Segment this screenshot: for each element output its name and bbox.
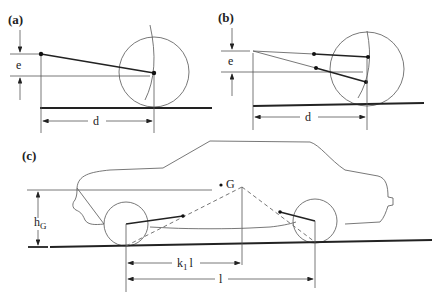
wheel-arc (358, 31, 370, 98)
cg-label: G (226, 177, 235, 191)
suspension-geometry-diagram: (a) e d (b) e (0, 0, 441, 304)
ground-line (253, 103, 424, 106)
dim-k1l-label: k1l (177, 256, 194, 272)
lower-arm (316, 68, 366, 82)
panel-c: (c) hG G k1l (22, 141, 432, 292)
dim-hg-label: hG (34, 215, 47, 231)
swing-arm (41, 54, 154, 73)
panel-b-label: (b) (218, 10, 234, 25)
cg-point (219, 183, 222, 186)
dim-d-label: d (93, 114, 99, 128)
rear-arm-pivot (278, 210, 282, 214)
panel-a-label: (a) (8, 12, 23, 27)
wheel-arc (145, 25, 154, 100)
panel-c-label: (c) (22, 148, 36, 163)
upper-arm-pivot (312, 52, 316, 56)
dim-d-label: d (305, 110, 311, 124)
rear-dashed-line (242, 187, 315, 242)
dim-wheelbase-label: l (219, 272, 223, 286)
panel-b: (b) e d (218, 10, 424, 130)
lower-arm-pivot (314, 66, 318, 70)
rear-suspension-arm (280, 212, 315, 221)
front-suspension-arm (126, 216, 183, 224)
ground-line (50, 240, 432, 247)
dim-e-label: e (16, 58, 21, 72)
panel-a: (a) e d (8, 12, 212, 133)
dim-e-label: e (228, 54, 233, 68)
upper-arm-wheel-joint (366, 55, 370, 59)
upper-arm (314, 54, 368, 57)
front-arm-pivot (181, 214, 185, 218)
wheel-center-point (152, 71, 156, 75)
pivot-point (39, 52, 43, 56)
